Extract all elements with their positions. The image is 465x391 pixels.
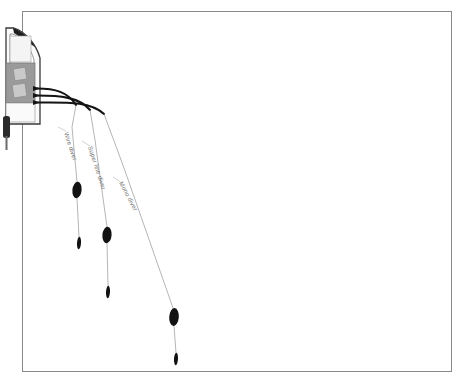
boat-bow-deck: [10, 36, 31, 62]
boat-seat-forward: [13, 67, 27, 81]
figure-frame: [23, 12, 452, 372]
motor-shaft: [6, 136, 8, 150]
outboard-motor: [3, 116, 10, 138]
boat-aft-deck: [6, 103, 35, 122]
figure-root: Wire diver Super line diver Mono diver: [0, 0, 465, 391]
diagram-canvas: Wire diver Super line diver Mono diver: [0, 0, 465, 391]
boat-seat-aft: [12, 83, 27, 98]
